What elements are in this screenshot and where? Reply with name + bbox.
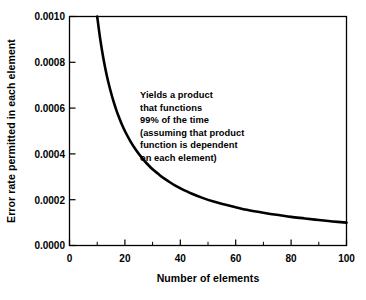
annotation-line-4: function is dependent — [140, 140, 238, 150]
x-tick-label-3: 60 — [230, 253, 242, 264]
y-tick-label-2: 0.0004 — [34, 149, 65, 160]
y-tick-label-1: 0.0002 — [34, 195, 65, 206]
annotation-line-2: 99% of the time — [140, 115, 209, 125]
x-tick-label-0: 0 — [67, 253, 73, 264]
x-tick-label-1: 20 — [119, 253, 131, 264]
annotation-line-1: that functions — [140, 103, 202, 113]
y-tick-label-4: 0.0008 — [34, 57, 65, 68]
y-tick-label-0: 0.0000 — [34, 240, 65, 251]
y-axis-title: Error rate permitted in each element — [5, 39, 17, 223]
chart-svg: 0.0010 0.0008 0.0006 0.0004 0.0002 0.000… — [0, 0, 366, 300]
annotation-line-0: Yields a product — [140, 90, 213, 100]
x-tick-labels: 0 20 40 60 80 100 — [67, 253, 356, 264]
annotation-line-5: on each element) — [140, 153, 217, 163]
y-tick-labels: 0.0010 0.0008 0.0006 0.0004 0.0002 0.000… — [34, 11, 65, 251]
annotation-line-3: (assuming that product — [140, 128, 244, 138]
chart-figure: 0.0010 0.0008 0.0006 0.0004 0.0002 0.000… — [0, 0, 366, 300]
y-tick-label-5: 0.0010 — [34, 11, 65, 22]
y-tick-label-3: 0.0006 — [34, 103, 65, 114]
x-axis-title: Number of elements — [157, 272, 260, 284]
x-tick-label-5: 100 — [338, 253, 355, 264]
x-tick-label-2: 40 — [175, 253, 187, 264]
x-tick-label-4: 80 — [286, 253, 298, 264]
